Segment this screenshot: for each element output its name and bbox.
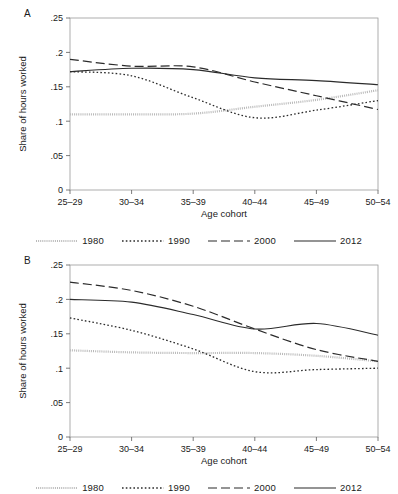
series-line-2000 — [70, 59, 378, 109]
y-axis-tick-label: 0 — [58, 185, 63, 195]
x-axis-title: Age cohort — [201, 455, 247, 466]
plot-area-a: 0.05.1.15.2.25Share of hours worked25–29… — [0, 0, 398, 230]
chart-panel-b: B 0.05.1.15.2.25Share of hours worked25–… — [0, 247, 398, 494]
legend-swatch-2000 — [208, 237, 250, 245]
figure-two-panel-line-chart: A 0.05.1.15.2.25Share of hours worked25–… — [0, 0, 398, 494]
legend-label-2000: 2000 — [254, 483, 276, 493]
legend-swatch-2012 — [294, 237, 336, 245]
series-line-2000 — [70, 282, 378, 361]
legend-b: 1980199020002012 — [0, 479, 398, 494]
y-axis-title: Share of hours worked — [17, 56, 28, 152]
legend-label-2000: 2000 — [254, 236, 276, 246]
legend-label-1990: 1990 — [168, 483, 190, 493]
x-axis-tick-label: 35–39 — [181, 197, 206, 207]
y-axis-tick-label: .05 — [50, 151, 63, 161]
legend-label-1980: 1980 — [82, 483, 104, 493]
legend-swatch-1980 — [36, 237, 78, 245]
x-axis-tick-label: 50–54 — [365, 444, 390, 454]
y-axis-tick-label: .25 — [50, 260, 63, 270]
x-axis-tick-label: 25–29 — [57, 444, 82, 454]
legend-label-2012: 2012 — [340, 236, 362, 246]
y-axis-tick-label: 0 — [58, 432, 63, 442]
legend-swatch-2000 — [208, 484, 250, 492]
plot-area-b: 0.05.1.15.2.25Share of hours worked25–29… — [0, 247, 398, 477]
x-axis-tick-label: 45–49 — [304, 197, 329, 207]
y-axis-title: Share of hours worked — [17, 303, 28, 399]
y-axis-tick-label: .1 — [55, 117, 63, 127]
series-line-1980 — [70, 90, 378, 114]
legend-entry-2012: 2012 — [294, 236, 362, 246]
x-axis-tick-label: 30–34 — [119, 197, 144, 207]
legend-label-2012: 2012 — [340, 483, 362, 493]
y-axis-tick-label: .05 — [50, 398, 63, 408]
legend-entry-2000: 2000 — [208, 236, 276, 246]
legend-entry-1990: 1990 — [122, 483, 190, 493]
legend-swatch-2012 — [294, 484, 336, 492]
legend-entry-2012: 2012 — [294, 483, 362, 493]
x-axis-tick-label: 40–44 — [242, 197, 267, 207]
chart-panel-a: A 0.05.1.15.2.25Share of hours worked25–… — [0, 0, 398, 247]
legend-swatch-1980 — [36, 484, 78, 492]
y-axis-tick-label: .2 — [55, 48, 63, 58]
legend-entry-1990: 1990 — [122, 236, 190, 246]
legend-entry-1980: 1980 — [36, 236, 104, 246]
y-axis-tick-label: .15 — [50, 82, 63, 92]
y-axis-tick-label: .2 — [55, 295, 63, 305]
legend-label-1990: 1990 — [168, 236, 190, 246]
x-axis-tick-label: 35–39 — [181, 444, 206, 454]
x-axis-tick-label: 40–44 — [242, 444, 267, 454]
y-axis-tick-label: .1 — [55, 364, 63, 374]
x-axis-tick-label: 25–29 — [57, 197, 82, 207]
legend-swatch-1990 — [122, 237, 164, 245]
legend-swatch-1990 — [122, 484, 164, 492]
series-line-1990 — [70, 318, 378, 373]
legend-entry-1980: 1980 — [36, 483, 104, 493]
legend-entry-2000: 2000 — [208, 483, 276, 493]
series-line-1980 — [70, 350, 378, 361]
legend-label-1980: 1980 — [82, 236, 104, 246]
x-axis-tick-label: 50–54 — [365, 197, 390, 207]
x-axis-tick-label: 45–49 — [304, 444, 329, 454]
x-axis-tick-label: 30–34 — [119, 444, 144, 454]
series-line-2012 — [70, 68, 378, 85]
y-axis-tick-label: .25 — [50, 13, 63, 23]
x-axis-title: Age cohort — [201, 208, 247, 219]
y-axis-tick-label: .15 — [50, 329, 63, 339]
